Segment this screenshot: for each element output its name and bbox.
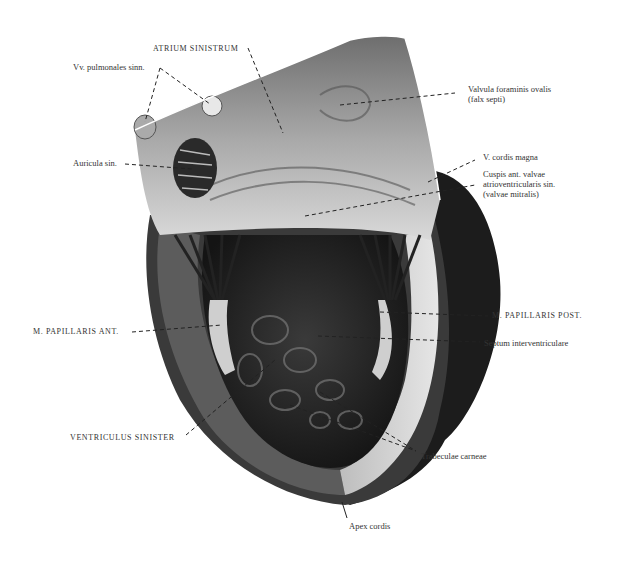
label-auricula-sin: Auricula sin. xyxy=(73,158,117,168)
label-v-cordis-magna: V. cordis magna xyxy=(483,152,538,162)
label-m-papillaris-ant: M. PAPILLARIS ANT. xyxy=(33,327,119,337)
heart-illustration: ATRIUM SINISTRUM Vv. pulmonales sinn. Au… xyxy=(0,0,618,567)
label-cuspis-ant: Cuspis ant. valvae atrioventricularis si… xyxy=(483,169,555,199)
label-ventriculus-sinister: VENTRICULUS SINISTER xyxy=(70,433,175,443)
label-apex-cordis: Apex cordis xyxy=(349,521,390,531)
label-vv-pulmonales: Vv. pulmonales sinn. xyxy=(73,62,145,72)
label-valvula-foraminis-ovalis: Valvula foraminis ovalis (falx septi) xyxy=(468,84,551,104)
label-trabeculae-carneae: Trabeculae carneae xyxy=(421,451,487,461)
label-septum-interventriculare: Septum interventriculare xyxy=(484,338,568,348)
label-atrium-sinistrum: ATRIUM SINISTRUM xyxy=(153,44,238,54)
label-m-papillaris-post: M. PAPILLARIS POST. xyxy=(492,311,582,321)
